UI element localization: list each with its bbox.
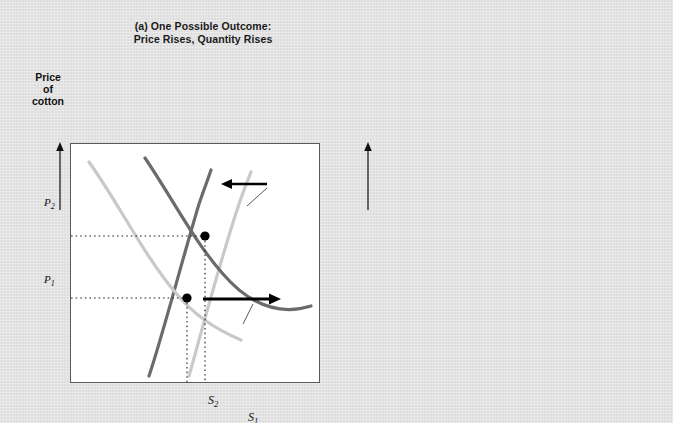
panel-a-y-axis-title-l3: cotton	[22, 95, 74, 107]
panel-a-demand-callout-leader	[243, 304, 253, 324]
panel-a-plot-area	[70, 143, 320, 383]
panel-a-label-s2: S2	[208, 393, 673, 409]
panel-a-supply-callout-leader	[247, 188, 267, 206]
panel-a-equilibrium-point-e2	[200, 232, 209, 241]
panel-a-title-line1: (a) One Possible Outcome:	[78, 20, 328, 33]
panel-a-y-axis-title-l2: of	[22, 83, 74, 95]
panel-a-equilibrium-point-e1	[182, 294, 191, 303]
panel-a-label-s1: S1	[248, 410, 673, 423]
panel-b-price-axis-arrow	[360, 140, 376, 212]
panel-a-title: (a) One Possible Outcome: Price Rises, Q…	[78, 20, 328, 45]
figure-container: (a) One Possible Outcome: Price Rises, Q…	[0, 0, 673, 423]
panel-a-plot-svg	[71, 144, 320, 383]
panel-a-y-axis-title: Price of cotton	[22, 71, 74, 107]
panel-a-y-axis-title-l1: Price	[22, 71, 74, 83]
panel-a-demand-shift-arrow	[203, 294, 281, 305]
panel-a-title-line2: Price Rises, Quantity Rises	[78, 33, 328, 46]
